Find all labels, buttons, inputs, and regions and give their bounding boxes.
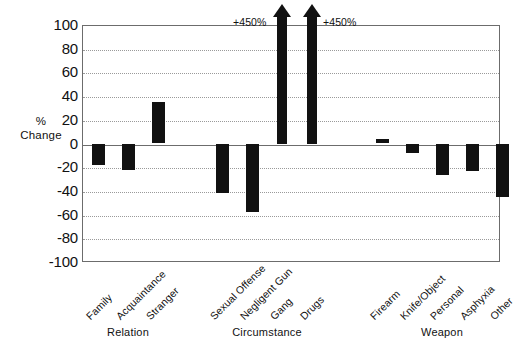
- x-tick-label: Other: [488, 295, 515, 322]
- percent-change-bar-chart: % Change 100806040200-20-40-60-80-100 +4…: [0, 0, 522, 356]
- bar-off-scale: [273, 4, 291, 144]
- arrow-stem: [277, 16, 287, 144]
- zero-line: [83, 145, 499, 146]
- y-tick-label: 40: [4, 88, 78, 103]
- gridline: [83, 50, 499, 51]
- y-tick-label: 20: [4, 112, 78, 127]
- x-tick-label: Gang: [268, 296, 294, 322]
- x-axis-category-labels: FamilyAcquaintanceStrangerSexual Offense…: [82, 262, 500, 322]
- group-label: Relation: [107, 326, 149, 339]
- y-tick-label: 100: [4, 17, 78, 32]
- gridline: [83, 73, 499, 74]
- arrow-stem: [307, 16, 317, 144]
- x-tick-label: Family: [84, 292, 114, 322]
- x-tick-label: Drugs: [298, 294, 326, 322]
- off-scale-value-label: +450%: [233, 17, 267, 28]
- x-tick-label: Firearm: [368, 288, 402, 322]
- gridline: [83, 216, 499, 217]
- y-tick-label: 60: [4, 64, 78, 79]
- group-label: Weapon: [421, 326, 463, 339]
- x-axis-group-labels: RelationCircumstanceWeapon: [82, 326, 500, 346]
- y-tick-label: 80: [4, 41, 78, 56]
- plot-area: [82, 25, 500, 262]
- off-scale-value-label: +450%: [323, 17, 357, 28]
- y-tick-label: -20: [4, 159, 78, 174]
- y-tick-label: -60: [4, 207, 78, 222]
- gridline: [83, 97, 499, 98]
- gridline: [83, 192, 499, 193]
- y-tick-label: -40: [4, 183, 78, 198]
- bar-off-scale: [303, 4, 321, 144]
- y-tick-label: -80: [4, 230, 78, 245]
- gridline: [83, 121, 499, 122]
- y-tick-label: 0: [4, 136, 78, 151]
- group-label: Circumstance: [232, 326, 302, 339]
- gridline: [83, 168, 499, 169]
- gridline: [83, 239, 499, 240]
- y-tick-label: -100: [4, 254, 78, 269]
- y-axis-tick-labels: 100806040200-20-40-60-80-100: [0, 25, 78, 262]
